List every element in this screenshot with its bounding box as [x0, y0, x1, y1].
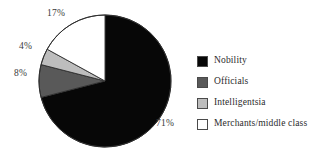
- legend-swatch-icon-nobility: [197, 56, 208, 67]
- legend-item-merchants: Merchants/middle class: [197, 114, 325, 134]
- pie-chart-figure: 71% 8% 4% 17% Nobility Officials Intelli…: [0, 0, 326, 158]
- legend-item-nobility: Nobility: [197, 51, 325, 71]
- slice-value-label-merchants: 17%: [47, 8, 65, 18]
- legend-swatch-icon-officials: [197, 77, 208, 88]
- chart-legend: Nobility Officials Intelligentsia Mercha…: [197, 51, 325, 135]
- legend-label-nobility: Nobility: [214, 56, 247, 66]
- slice-value-label-nobility: 71%: [156, 118, 174, 128]
- legend-swatch-icon-intelligentsia: [197, 98, 208, 109]
- legend-label-officials: Officials: [214, 77, 248, 87]
- slice-value-label-officials: 8%: [14, 68, 27, 78]
- legend-item-officials: Officials: [197, 72, 325, 92]
- legend-label-merchants: Merchants/middle class: [214, 119, 307, 129]
- legend-swatch-icon-merchants: [197, 119, 208, 130]
- slice-value-label-intelligentsia: 4%: [19, 41, 32, 51]
- pie-slice-group: [39, 15, 171, 147]
- legend-label-intelligentsia: Intelligentsia: [214, 98, 266, 108]
- legend-item-intelligentsia: Intelligentsia: [197, 93, 325, 113]
